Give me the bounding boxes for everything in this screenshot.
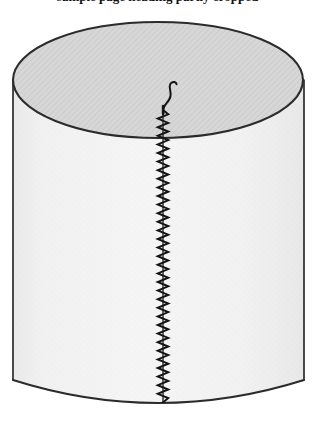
figure-page: sample page heading partly cropped xyxy=(0,0,315,424)
cylinder-illustration xyxy=(0,0,315,424)
cylinder-top-face xyxy=(13,22,303,138)
